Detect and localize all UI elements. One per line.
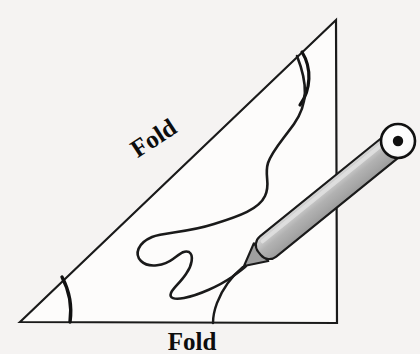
figure-root: Fold Fold [0,0,420,354]
fold-label-base: Fold [168,328,217,354]
stylus-end-cap-dot-icon [393,136,403,146]
fold-diagram-svg: Fold Fold [0,0,420,354]
